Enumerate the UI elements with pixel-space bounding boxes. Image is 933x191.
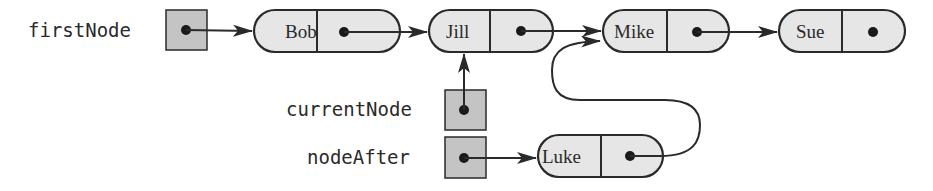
currentNode-label: currentNode xyxy=(286,100,412,119)
linked-list-diagram: Bob Jill Mike Sue xyxy=(0,0,933,191)
node-mike-data: Mike xyxy=(614,21,654,42)
firstNode-label: firstNode xyxy=(28,21,131,40)
diagram-svg: Bob Jill Mike Sue xyxy=(0,0,933,191)
node-bob-data: Bob xyxy=(285,21,317,42)
node-jill-data: Jill xyxy=(446,21,469,42)
nodeAfter-label: nodeAfter xyxy=(307,148,410,167)
currentNode-ref-box xyxy=(445,90,486,130)
node-sue: Sue xyxy=(779,10,905,52)
node-sue-data: Sue xyxy=(796,21,825,42)
node-luke-data: Luke xyxy=(542,146,581,167)
arrow-firstNode-to-bob xyxy=(186,30,252,31)
